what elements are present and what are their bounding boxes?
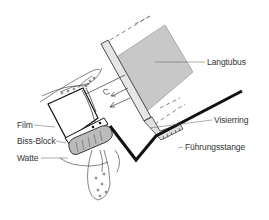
long-tube <box>115 25 193 112</box>
diagram-illustration <box>0 0 269 220</box>
label-fuehrungsstange: Führungsstange <box>185 143 245 152</box>
label-biss-block: Biss-Block <box>17 137 56 146</box>
aiming-ring-foot <box>144 117 183 140</box>
label-film: Film <box>17 121 33 130</box>
label-watte: Watte <box>17 154 38 163</box>
label-visierring: Visierring <box>214 116 248 125</box>
dental-xray-diagram: Langtubus Visierring Führungsstange Film… <box>0 0 269 220</box>
lower-jaw <box>60 150 120 200</box>
label-langtubus: Langtubus <box>207 58 246 67</box>
